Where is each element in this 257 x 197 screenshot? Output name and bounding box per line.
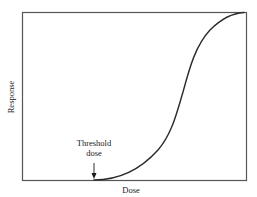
threshold-arrow-head-icon	[92, 173, 97, 179]
dose-response-curve	[94, 13, 244, 181]
dose-response-chart: Threshold dose Dose Response	[0, 0, 257, 197]
y-axis-label: Response	[6, 80, 16, 113]
threshold-label-line2: dose	[86, 148, 102, 158]
plot-frame	[23, 13, 247, 181]
x-axis-label: Dose	[122, 185, 140, 195]
threshold-label-line1: Threshold	[77, 138, 112, 148]
